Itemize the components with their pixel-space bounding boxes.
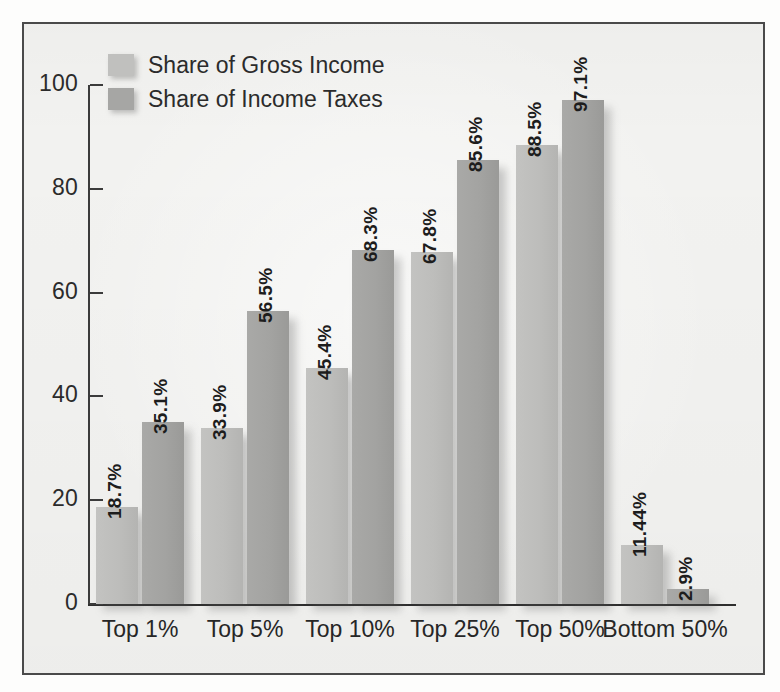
bar-gross-income [411,252,453,604]
bar-gross-income [96,507,138,604]
y-axis-tick-label: 20 [20,485,78,512]
bar-gross-income [306,368,348,604]
y-axis-tick [90,292,103,294]
bar-value-label: 85.6% [465,116,487,171]
y-axis-tick-label: 60 [20,278,78,305]
bar-value-label: 33.9% [209,385,231,440]
legend-item-income-taxes: Share of Income Taxes [108,82,385,116]
legend-label-income-taxes: Share of Income Taxes [148,86,383,113]
y-axis-line [88,85,90,606]
bar-income-taxes [247,311,289,604]
legend-swatch-gross-income [108,54,134,76]
legend-item-gross-income: Share of Gross Income [108,48,385,82]
chart-figure: Share of Gross Income Share of Income Ta… [0,0,780,692]
bar-value-label: 2.9% [675,556,697,601]
y-axis-tick-label: 80 [20,174,78,201]
bar-value-label: 45.4% [314,325,336,380]
bar-gross-income [516,145,558,604]
bar-value-label: 11.44% [629,491,651,556]
y-axis-tick-label: 0 [20,589,78,616]
x-axis-category-label: Bottom 50% [595,616,735,643]
bar-value-label: 68.3% [360,206,382,261]
y-axis-tick [90,84,103,86]
bar-income-taxes [457,160,499,604]
bar-value-label: 67.8% [419,209,441,264]
bar-income-taxes [352,250,394,604]
bar-value-label: 88.5% [524,101,546,156]
legend-label-gross-income: Share of Gross Income [148,52,385,79]
bar-value-label: 18.7% [104,464,126,519]
bar-income-taxes [142,422,184,604]
chart-legend: Share of Gross Income Share of Income Ta… [108,48,385,116]
bar-value-label: 97.1% [570,57,592,112]
bar-gross-income [201,428,243,604]
bar-value-label: 56.5% [255,267,277,322]
y-axis-tick-label: 40 [20,381,78,408]
legend-swatch-income-taxes [108,88,134,110]
y-axis-tick [90,188,103,190]
y-axis-tick [90,499,103,501]
bar-value-label: 35.1% [150,378,172,433]
y-axis-tick [90,395,103,397]
y-axis-tick-label: 100 [20,70,78,97]
bar-income-taxes [562,100,604,604]
